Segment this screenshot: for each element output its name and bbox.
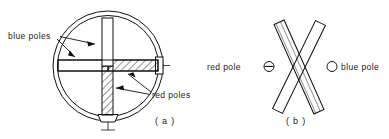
vertical-bar-red-pole xyxy=(102,66,113,115)
caption-panel-a: ( a ) xyxy=(155,116,175,126)
label-red-poles: red poles xyxy=(152,90,191,100)
figure-root: blue poles red poles ( a ) xyxy=(0,0,389,139)
horizontal-bar-red-pole xyxy=(108,60,158,71)
label-blue-poles: blue poles xyxy=(8,31,51,41)
magnet-pole-figure: blue poles red poles ( a ) xyxy=(0,0,389,139)
bottom-mount-trapezoid xyxy=(98,115,118,123)
legend-blue-pole-label: blue pole xyxy=(341,62,379,72)
horizontal-bar-blue-pole xyxy=(58,60,108,71)
caption-panel-b: ( b ) xyxy=(286,116,306,126)
legend-red-pole-label: red pole xyxy=(207,62,241,72)
vertical-bar-blue-pole xyxy=(102,18,113,66)
